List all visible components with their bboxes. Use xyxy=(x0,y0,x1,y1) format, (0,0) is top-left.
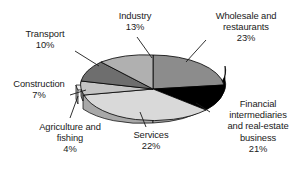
leader-transport xyxy=(75,51,99,66)
slice-label-financial: Financial intermediaries and real-estate… xyxy=(212,98,304,154)
slice-label-services: Services 22% xyxy=(122,129,180,151)
slice-label-wholesale: Wholesale and restaurants 23% xyxy=(198,10,294,44)
slice-label-construction: Construction 7% xyxy=(2,78,76,100)
pie-top-face xyxy=(81,55,225,121)
slice-top-wholesale xyxy=(153,55,224,89)
slice-label-industry: Industry 13% xyxy=(104,10,166,32)
slice-label-agriculture: Agriculture and fishing 4% xyxy=(24,121,116,155)
pie-chart: Industry 13% Wholesale and restaurants 2… xyxy=(0,0,308,174)
slice-label-transport: Transport 10% xyxy=(12,28,78,50)
